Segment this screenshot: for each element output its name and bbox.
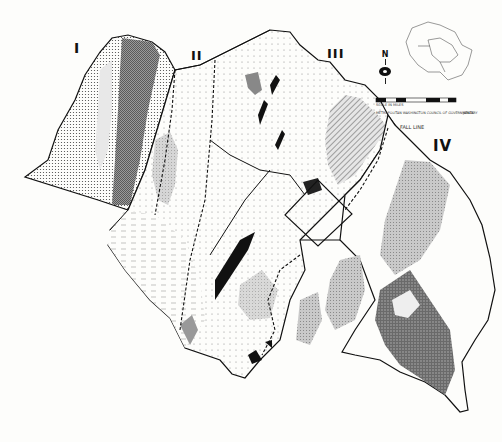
north-arrow: N bbox=[378, 50, 392, 84]
north-arrow-label: N bbox=[378, 50, 392, 59]
fall-line-label: FALL LINE bbox=[400, 124, 424, 130]
geologic-map bbox=[0, 0, 502, 442]
region-label-iv: IV bbox=[433, 137, 452, 155]
map-date: JANUARY bbox=[463, 111, 477, 115]
scale-caption: SCALE IN MILES bbox=[376, 103, 404, 107]
scale-bar bbox=[376, 98, 456, 102]
region-label-ii: II bbox=[191, 48, 203, 63]
map-credit: METROPOLITAN WASHINGTON COUNCIL OF GOVER… bbox=[376, 111, 474, 115]
inset-locator-map bbox=[406, 22, 472, 80]
region-label-i: I bbox=[74, 40, 80, 56]
region-label-iii: III bbox=[327, 46, 345, 61]
north-arrow-stem-top bbox=[385, 59, 386, 65]
north-arrow-icon bbox=[379, 67, 391, 76]
north-arrow-stem-bottom bbox=[385, 78, 386, 84]
